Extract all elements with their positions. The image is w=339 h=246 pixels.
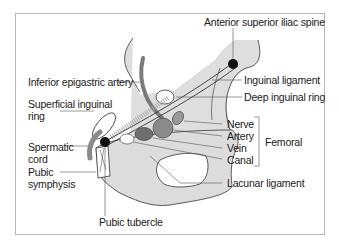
label-superficial-inguinal-ring-line1: Superficial inguinal <box>28 98 112 110</box>
label-femoral-artery: Artery <box>227 130 254 142</box>
asis-landmark <box>228 59 238 69</box>
femoral-vein-shape <box>135 128 153 141</box>
label-pubic-symphysis-line1: Pubic <box>28 166 53 178</box>
label-deep-inguinal-ring: Deep inguinal ring <box>244 91 325 103</box>
pubic-symphysis <box>96 146 110 178</box>
femoral-canal-shape <box>120 134 134 144</box>
anatomy-illustration <box>0 0 339 246</box>
label-inferior-epigastric-artery: Inferior epigastric artery <box>28 76 133 88</box>
pubic-tubercle-landmark <box>100 137 110 147</box>
femoral-artery-shape <box>153 118 173 138</box>
label-femoral-group: Femoral <box>265 136 302 148</box>
label-lacunar-ligament: Lacunar ligament <box>227 177 304 189</box>
label-spermatic-cord-line1: Spermatic <box>28 141 73 153</box>
label-femoral-canal: Canal <box>227 154 253 166</box>
label-spermatic-cord-line2: cord <box>28 153 48 165</box>
label-anterior-superior-iliac-spine: Anterior superior iliac spine <box>204 16 325 28</box>
label-pubic-tubercle: Pubic tubercle <box>99 216 163 228</box>
label-inguinal-ligament: Inguinal ligament <box>244 74 320 86</box>
label-femoral-nerve: Nerve <box>227 118 254 130</box>
label-pubic-symphysis-line2: symphysis <box>28 178 75 190</box>
obturator-foramen <box>157 153 208 187</box>
label-femoral-vein: Vein <box>227 142 247 154</box>
label-superficial-inguinal-ring-line2: ring <box>28 110 45 122</box>
